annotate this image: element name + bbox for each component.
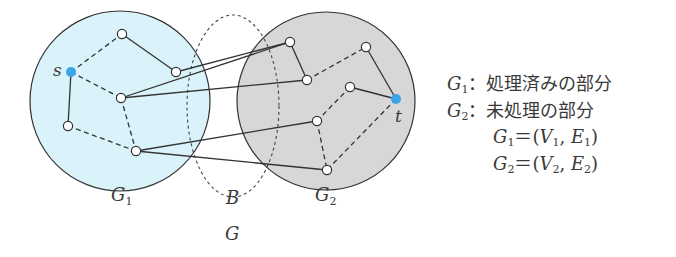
node-a2 <box>171 67 180 76</box>
node-b6 <box>322 165 331 174</box>
legend: G1：処理済みの部分 G2：未処理の部分 G1＝(V1, E1) G2＝(V2,… <box>447 74 612 180</box>
node-b3 <box>361 42 370 51</box>
label-s: s <box>53 60 62 80</box>
node-b5 <box>312 116 321 125</box>
node-a4 <box>63 121 72 130</box>
node-b1 <box>285 37 294 46</box>
label-g: G <box>225 223 239 244</box>
legend-line-g1: G1：処理済みの部分 <box>447 74 612 101</box>
label-b: B <box>225 187 239 208</box>
legend-def-g1: G1＝(V1, E1) <box>447 127 612 154</box>
legend-def-g2: G2＝(V2, E2) <box>447 154 612 181</box>
node-b2 <box>302 75 311 84</box>
node-t <box>391 94 401 104</box>
node-a3 <box>116 93 125 102</box>
node-a1 <box>117 29 126 38</box>
node-b4 <box>345 82 354 91</box>
label-t: t <box>395 106 402 126</box>
node-a5 <box>131 146 140 155</box>
legend-line-g2: G2：未処理の部分 <box>447 101 612 128</box>
node-s <box>66 67 76 77</box>
